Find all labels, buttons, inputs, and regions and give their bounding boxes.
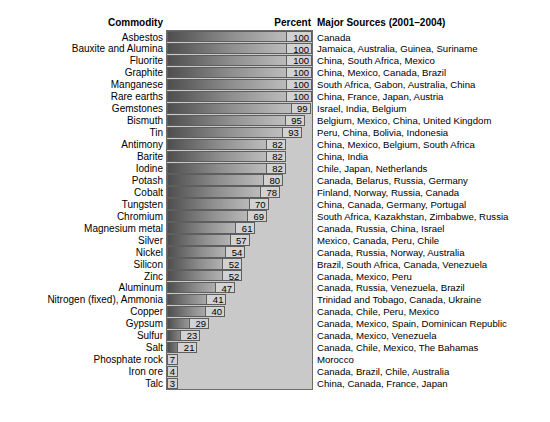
percent-value: 54: [225, 246, 245, 257]
bar-container: 7: [167, 354, 312, 365]
percent-value: 40: [205, 306, 225, 317]
bar-container: 99: [167, 103, 312, 114]
bar-container: 4: [167, 366, 312, 377]
percent-value: 7: [167, 354, 178, 365]
chart-row: Talc3China, Canada, France, Japan: [0, 377, 550, 390]
bar-container: 61: [167, 222, 312, 233]
bar-container: 3: [167, 378, 312, 389]
column-header-major-sources: Major Sources (2001–2004): [317, 17, 445, 29]
percent-value: 78: [260, 186, 280, 197]
bar-container: 100: [167, 67, 312, 78]
bar-container: 41: [167, 294, 312, 305]
bar-container: 82: [167, 151, 312, 162]
bar-container: 70: [167, 198, 312, 209]
bar-container: 95: [167, 115, 312, 126]
percent-value: 82: [266, 139, 286, 150]
percent-value: 41: [206, 294, 226, 305]
percent-value: 100: [286, 79, 312, 90]
bar-container: 100: [167, 91, 312, 102]
percent-value: 100: [286, 31, 312, 42]
column-header-percent: Percent: [150, 17, 311, 29]
bar-container: 69: [167, 210, 312, 221]
bar-container: 93: [167, 127, 312, 138]
bar-container: 54: [167, 246, 312, 257]
percent-value: 100: [286, 43, 312, 54]
percent-value: 80: [263, 174, 283, 185]
bar-container: 100: [167, 55, 312, 66]
percent-value: 61: [235, 222, 255, 233]
bar-container: 40: [167, 306, 312, 317]
major-sources-text: China, Canada, France, Japan: [317, 378, 448, 390]
percent-value: 82: [266, 151, 286, 162]
percent-value: 29: [189, 318, 209, 329]
percent-bar: [167, 103, 311, 114]
bar-container: 21: [167, 342, 312, 353]
percent-value: 57: [230, 234, 250, 245]
percent-value: 52: [222, 258, 242, 269]
bar-container: 78: [167, 186, 312, 197]
bar-container: 82: [167, 139, 312, 150]
percent-value: 82: [266, 163, 286, 174]
bar-container: 23: [167, 330, 312, 341]
percent-value: 95: [285, 115, 305, 126]
bar-container: 100: [167, 79, 312, 90]
bar-container: 100: [167, 31, 312, 42]
bar-container: 80: [167, 174, 312, 185]
percent-value: 69: [247, 210, 267, 221]
bar-container: 52: [167, 270, 312, 281]
percent-value: 47: [215, 282, 235, 293]
percent-value: 100: [286, 55, 312, 66]
bar-container: 47: [167, 282, 312, 293]
bar-container: 52: [167, 258, 312, 269]
percent-value: 4: [167, 366, 178, 377]
import-reliance-chart: Commodity Percent Major Sources (2001–20…: [0, 0, 550, 422]
percent-value: 100: [286, 91, 312, 102]
bar-container: 82: [167, 163, 312, 174]
percent-value: 99: [291, 103, 311, 114]
percent-value: 21: [177, 342, 197, 353]
bar-container: 100: [167, 43, 312, 54]
bar-container: 57: [167, 234, 312, 245]
percent-value: 23: [180, 330, 200, 341]
commodity-label: Talc: [0, 378, 163, 390]
percent-value: 3: [167, 378, 178, 389]
column-header-commodity: Commodity: [0, 17, 163, 29]
bar-container: 29: [167, 318, 312, 329]
percent-value: 52: [222, 270, 242, 281]
percent-value: 70: [249, 198, 269, 209]
percent-value: 93: [282, 127, 302, 138]
percent-value: 100: [286, 67, 312, 78]
